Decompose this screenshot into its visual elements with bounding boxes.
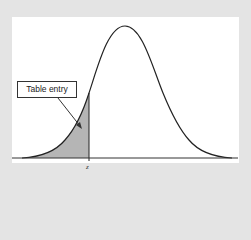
z-marker-label: z [86, 163, 89, 171]
table-entry-callout: Table entry [17, 81, 77, 98]
callout-arrow [58, 98, 80, 126]
